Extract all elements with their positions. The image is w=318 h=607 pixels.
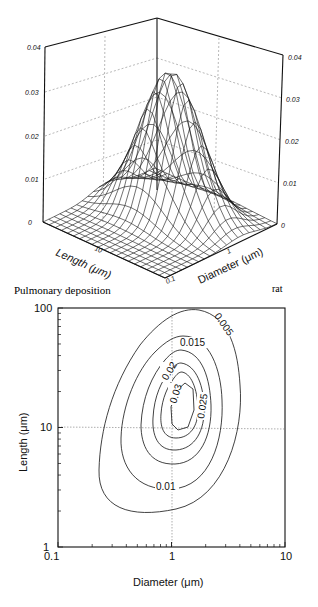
- x-axis-label: Diameter (μm): [133, 576, 204, 588]
- reference-lines: [58, 308, 285, 547]
- y-axis-label: Length (μm): [17, 412, 29, 472]
- y-tick-100: 100: [34, 302, 52, 314]
- y-tick-1: 1: [43, 541, 49, 553]
- x-tick-1: 1: [169, 550, 175, 562]
- contour-labels: 0.005 0.015 0.02 0.03 0.025 0.01: [155, 311, 243, 492]
- y-tick-10: 10: [40, 421, 52, 433]
- contour-plot: 0.005 0.015 0.02 0.03 0.025 0.01 0.1 1 1…: [0, 0, 318, 607]
- contour-label-0.015: 0.015: [180, 337, 205, 348]
- contour-label-0.01: 0.01: [156, 481, 176, 492]
- x-tick-10: 10: [280, 550, 292, 562]
